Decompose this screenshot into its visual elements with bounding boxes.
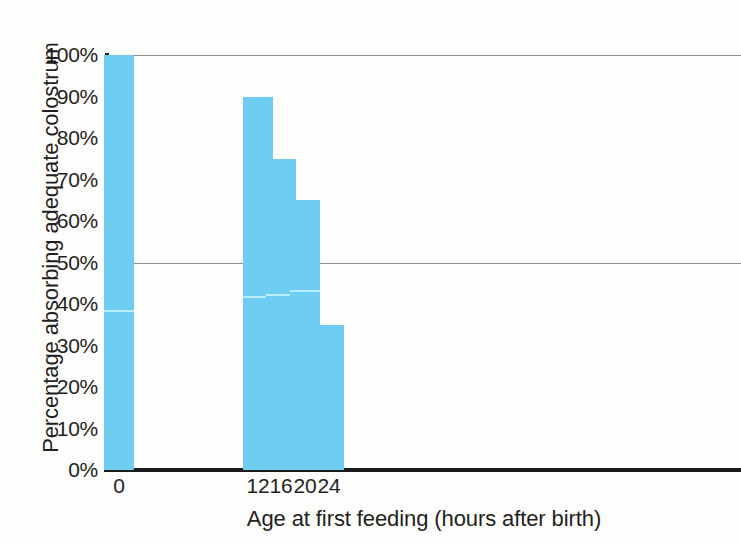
x-tick-label: 12 — [247, 474, 270, 498]
bar-chart-figure: Percentage absorbing adequate colostrum … — [0, 0, 741, 545]
x-tick-label: 16 — [270, 474, 293, 498]
x-tick-label: 0 — [113, 474, 124, 498]
y-tick-label: 100% — [45, 43, 98, 67]
bar-24h[interactable] — [314, 325, 344, 470]
y-tick-label: 90% — [57, 85, 98, 109]
y-tick-label: 70% — [57, 168, 98, 192]
y-tick-label: 40% — [57, 292, 98, 316]
x-tick-label: 20 — [294, 474, 317, 498]
x-axis-title: Age at first feeding (hours after birth) — [107, 506, 741, 532]
y-tick-label: 50% — [57, 251, 98, 275]
plot-area: 0%10%20%30%40%50%60%70%80%90%100% — [107, 55, 741, 470]
y-tick-label: 10% — [57, 417, 98, 441]
bar-0h[interactable] — [104, 55, 134, 470]
bar-segment-divider — [104, 310, 134, 312]
y-tick-label: 60% — [57, 209, 98, 233]
y-tick-label: 30% — [57, 334, 98, 358]
y-tick-label: 20% — [57, 375, 98, 399]
gridline-100 — [107, 55, 741, 56]
bar-segment-divider — [290, 290, 320, 292]
x-tick-label: 24 — [318, 474, 341, 498]
y-tick-label: 0% — [68, 458, 98, 482]
gridline-50 — [107, 263, 741, 264]
y-tick-label: 80% — [57, 126, 98, 150]
